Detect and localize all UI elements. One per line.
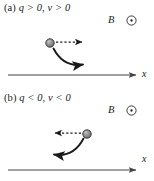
panel-b: (b) q < 0, v < 0 B: [0, 90, 154, 180]
physics-figure: (a) q > 0, v > 0 B: [0, 0, 154, 181]
charged-particle-b: [83, 130, 91, 138]
x-axis-label-b: x: [142, 153, 146, 164]
panel-b-graphics: [0, 90, 154, 180]
charged-particle-a: [46, 39, 54, 47]
x-axis-label-a: x: [142, 68, 146, 79]
panel-a: (a) q > 0, v > 0 B: [0, 0, 154, 90]
force-curve-b: [54, 139, 84, 155]
panel-a-graphics: [0, 0, 154, 90]
force-curve-a: [54, 49, 84, 65]
